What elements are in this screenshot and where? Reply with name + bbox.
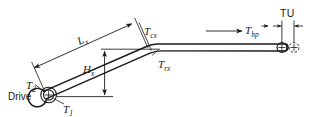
hx-subscript: x <box>91 70 94 78</box>
drive-label: Drive <box>8 92 31 102</box>
conveyor-belt-diagram: Drive T1 T2 Lx Hx Tcx Trx Thp TU <box>0 0 313 116</box>
incline-length-dimension <box>32 18 148 92</box>
thp-label: Thp <box>245 21 259 37</box>
thp-subscript: hp <box>251 31 259 39</box>
trx-label: Trx <box>158 55 170 71</box>
t1-subscript: 1 <box>69 110 73 117</box>
drive-pulley <box>41 87 57 103</box>
diagram-canvas <box>0 0 313 116</box>
tu-label: TU <box>280 8 295 19</box>
takeup-travel-dimension <box>273 21 303 44</box>
tail-pulley <box>277 43 287 53</box>
t1-label: T1 <box>63 100 73 116</box>
hx-symbol: H <box>83 63 91 75</box>
hx-label: Hx <box>83 60 94 76</box>
takeup-pulley <box>289 43 299 53</box>
tcx-label: Tcx <box>144 22 157 38</box>
t2-label: T2 <box>26 76 36 92</box>
tcx-subscript: cx <box>150 32 157 40</box>
t2-subscript: 2 <box>32 86 36 94</box>
trx-subscript: rx <box>164 65 170 73</box>
